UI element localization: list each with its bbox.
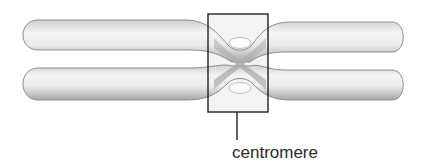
chromosome-diagram: centromere <box>0 0 429 165</box>
upper-gap <box>229 38 251 49</box>
lower-gap <box>229 83 251 94</box>
centromere-label: centromere <box>232 143 318 162</box>
lower-chromatid <box>23 65 403 100</box>
